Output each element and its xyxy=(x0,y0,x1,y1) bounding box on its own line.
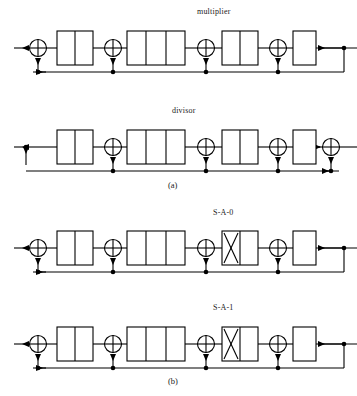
xor-sa0-4 xyxy=(270,240,287,257)
register-multiplier-4 xyxy=(293,31,316,65)
row-label-multiplier: multiplier xyxy=(197,7,231,16)
xor-sa0-3 xyxy=(198,240,215,257)
xor-divisor-4 xyxy=(323,139,340,156)
register-multiplier-3 xyxy=(222,31,258,65)
register-sa0-4 xyxy=(293,231,316,265)
register-sa0-1 xyxy=(57,231,93,265)
register-sa0-2 xyxy=(127,231,185,265)
xor-multiplier-4 xyxy=(270,40,287,57)
row-label-sa0: S-A-0 xyxy=(213,208,234,217)
row-divisor xyxy=(14,130,357,173)
xor-multiplier-1 xyxy=(30,40,47,57)
row-multiplier xyxy=(14,31,357,74)
register-multiplier-2 xyxy=(127,31,185,65)
register-sa1-1 xyxy=(57,327,93,361)
row-label-divisor: divisor xyxy=(172,106,196,115)
xor-divisor-2 xyxy=(198,139,215,156)
register-multiplier-1 xyxy=(57,31,93,65)
register-sa0-3 xyxy=(222,231,258,265)
xor-divisor-3 xyxy=(270,139,287,156)
register-divisor-2 xyxy=(127,130,185,164)
xor-multiplier-2 xyxy=(105,40,122,57)
register-divisor-1 xyxy=(57,130,93,164)
xor-sa1-1 xyxy=(30,336,47,353)
register-divisor-3 xyxy=(222,130,258,164)
caption-panel-a: (a) xyxy=(168,180,177,190)
figure-lfsr-fault-diagram: multiplier divisor S-A-0 S-A-1 (a) (b) xyxy=(0,0,357,396)
register-sa1-2 xyxy=(127,327,185,361)
caption-panel-b: (b) xyxy=(168,376,178,386)
register-divisor-4 xyxy=(293,130,316,164)
row-stuck-at-1 xyxy=(14,327,357,370)
xor-sa1-3 xyxy=(198,336,215,353)
xor-sa0-1 xyxy=(30,240,47,257)
row-label-sa1: S-A-1 xyxy=(213,303,234,312)
xor-divisor-1 xyxy=(105,139,122,156)
xor-sa1-4 xyxy=(270,336,287,353)
register-sa1-4 xyxy=(293,327,316,361)
xor-multiplier-3 xyxy=(198,40,215,57)
row-stuck-at-0 xyxy=(14,231,357,274)
xor-sa1-2 xyxy=(105,336,122,353)
diagram-canvas xyxy=(0,0,357,396)
xor-sa0-2 xyxy=(105,240,122,257)
register-sa1-3 xyxy=(222,327,258,361)
